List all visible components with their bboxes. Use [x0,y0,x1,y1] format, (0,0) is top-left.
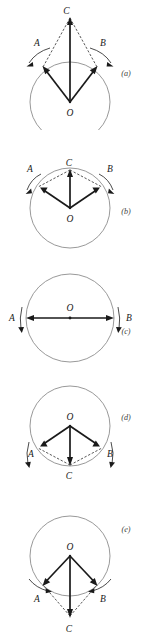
label-b-d: B [107,449,113,459]
vector-oa-d [44,426,71,444]
label-o-d: O [67,412,74,422]
label-a-e: A [33,594,40,604]
label-o-e: O [67,542,74,552]
vector-ob-b [70,190,97,208]
arc-indicator-b-left [27,174,41,190]
panel-a: C A B O (a) [0,0,142,130]
panel-id-d: (d) [121,413,131,422]
label-a-b: A [26,164,33,174]
vector-oa-e [46,556,71,582]
arc-arrowhead-d-right [109,462,115,468]
label-c-a: C [63,6,70,16]
center-dot-a [69,101,71,103]
vector-ob-a [70,70,95,102]
vector-oa-b [44,190,71,208]
panel-b: C A B O (b) [0,130,142,255]
label-a-d: A [27,449,34,459]
label-o-a: O [67,108,74,118]
label-b-b: B [107,164,113,174]
arc-arrowhead-e-right [88,588,94,593]
arc-indicator-b-right [99,174,113,190]
arc-arrowhead-a-right [107,62,114,67]
label-o-b: O [67,214,74,224]
vector-ob-e [70,556,95,582]
arrowhead-oc-a [67,17,73,25]
label-o-c: O [67,303,74,313]
arrowhead-right-c [106,315,114,321]
label-b-c: B [126,313,132,323]
arc-indicator-a-left [29,48,50,63]
arc-arrowhead-c-left [18,327,24,333]
arrowhead-left-c [26,315,34,321]
vector-oa-a [46,70,71,102]
center-dot-d [69,425,71,427]
panel-id-e: (e) [121,525,130,534]
label-a-c: A [8,313,15,323]
arc-arrowhead-d-left [25,462,31,468]
panel-id-c: (c) [121,327,130,336]
arc-arrowhead-a-left [27,62,34,67]
label-b-e: B [100,594,106,604]
arc-arrowhead-b-left [26,189,32,194]
arc-indicator-c-left [20,307,22,329]
center-dot-e [69,555,71,557]
arc-indicator-c-right [118,307,120,329]
panel-e: O A B C (e) [0,506,142,639]
center-dot-c [69,317,72,320]
label-c-b: C [66,158,73,168]
arc-indicator-a-right [90,48,111,63]
panel-id-b: (b) [121,207,131,216]
arc-arrowhead-e-left [46,588,52,593]
arrowhead-oc-b [67,169,73,177]
label-a-a: A [33,38,40,48]
label-c-d: C [66,471,73,481]
arrowhead-ob-a [90,66,98,74]
arrowhead-oa-a [43,66,51,74]
arrowhead-oc-d [67,457,73,466]
arrowhead-oc-e [67,609,73,618]
panel-d: O A B C (d) [0,380,142,508]
arc-arrowhead-b-right [108,189,114,194]
figure-sheet: C A B O (a) C A B O (b) [0,0,142,639]
panel-c: A B O (c) [0,262,142,380]
vector-ob-d [70,426,97,444]
label-b-a: B [100,38,106,48]
label-c-e: C [66,624,73,634]
panel-id-a: (a) [121,69,131,78]
center-dot-b [69,207,71,209]
